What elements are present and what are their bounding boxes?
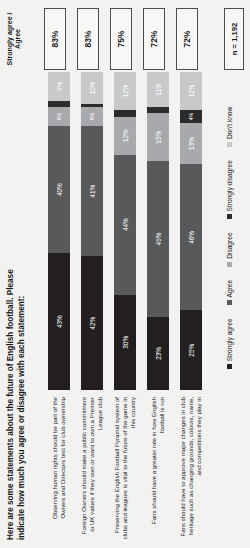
stacked-bar: 43%40%6%9%: [48, 72, 70, 390]
bar-segment-di: 6%: [81, 107, 103, 126]
bar-segment-sa: 30%: [114, 295, 136, 390]
plot-area: Observing human rights should be part of…: [44, 72, 212, 540]
legend-swatch-icon: [227, 300, 232, 305]
bar-segment-ag: 41%: [81, 126, 103, 256]
bar-segment-sd: [114, 110, 136, 116]
bar-segment-sa: 43%: [48, 253, 70, 390]
legend-item-sd: Strongly disagree: [226, 160, 233, 219]
bar-segment-sd: [81, 104, 103, 107]
bar-segment-di: 12%: [114, 117, 136, 155]
chart-row: Fans should have to approve major change…: [176, 72, 206, 540]
stacked-bar: 25%46%13%4%12%: [180, 72, 202, 390]
bar-segment-di: 13%: [180, 123, 202, 164]
total-agree-box: 83%: [44, 8, 66, 70]
row-label: Fans should have to approve major change…: [179, 390, 203, 540]
bar-segment-dk: 10%: [81, 72, 103, 104]
bar-segment-dk: 9%: [48, 72, 70, 101]
legend-item-ag: Agree: [226, 280, 233, 306]
legend-item-dk: Don't know: [226, 107, 233, 147]
chart-row: Preserving the English Football Pyramid …: [110, 72, 140, 540]
bar-segment-dk: 12%: [114, 72, 136, 110]
legend-label: Agree: [226, 280, 233, 298]
stacked-bar-chart-figure: Here are some statements about the futur…: [0, 0, 250, 548]
chart-row: Foreign Owners should make a public comm…: [77, 72, 107, 540]
bar-segment-ag: 44%: [114, 155, 136, 295]
bar-segment-dk: 12%: [180, 72, 202, 110]
bar-segment-ag: 49%: [147, 161, 169, 317]
bar-segment-sa: 23%: [147, 317, 169, 390]
total-agree-box: 83%: [77, 8, 99, 70]
sample-size-box: n = 1,192: [224, 8, 244, 70]
legend-swatch-icon: [227, 214, 232, 219]
legend-label: Strongly disagree: [226, 160, 233, 211]
row-label: Preserving the English Football Pyramid …: [113, 390, 137, 540]
legend-swatch-icon: [227, 142, 232, 147]
bar-segment-sa: 25%: [180, 311, 202, 391]
bar-segment-sa: 42%: [81, 256, 103, 390]
legend-label: Don't know: [226, 107, 233, 139]
stacked-bar: 30%44%12%12%: [114, 72, 136, 390]
legend-item-sa: Strongly agree: [226, 318, 233, 369]
legend-swatch-icon: [227, 262, 232, 267]
bar-segment-sd: [147, 107, 169, 113]
page-title: Here are some statements about the futur…: [6, 240, 28, 540]
chart-row: Observing human rights should be part of…: [44, 72, 74, 540]
stacked-bar: 42%41%6%10%: [81, 72, 103, 390]
legend-label: Strongly agree: [226, 318, 233, 361]
bar-segment-sd: 4%: [180, 110, 202, 123]
total-agree-box: 75%: [110, 8, 132, 70]
bar-segment-di: 6%: [48, 107, 70, 126]
chart-stage: Here are some statements about the futur…: [0, 0, 250, 548]
chart-row: Fans should have a greater role in how E…: [143, 72, 173, 540]
chart-legend: Strongly agreeAgreeDisagreeStrongly disa…: [226, 78, 233, 398]
row-label: Fans should have a greater role in how E…: [150, 390, 166, 540]
row-label: Foreign Owners should make a public comm…: [80, 390, 104, 540]
legend-label: Disagree: [226, 232, 233, 258]
totals-column-header: Strongly agree / Agree: [6, 8, 23, 70]
total-agree-box: 72%: [143, 8, 165, 70]
legend-item-di: Disagree: [226, 232, 233, 266]
bar-segment-di: 15%: [147, 113, 169, 161]
bar-segment-ag: 40%: [48, 126, 70, 253]
bar-segment-ag: 46%: [180, 164, 202, 310]
legend-swatch-icon: [227, 364, 232, 369]
totals-column: 83%83%75%72%72%: [44, 8, 212, 70]
stacked-bar: 23%49%15%11%: [147, 72, 169, 390]
total-agree-box: 72%: [176, 8, 198, 70]
row-label: Observing human rights should be part of…: [51, 390, 67, 540]
bar-segment-dk: 11%: [147, 72, 169, 107]
bar-segment-sd: [48, 101, 70, 107]
